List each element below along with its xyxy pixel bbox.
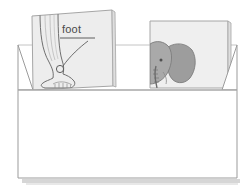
box-shadow bbox=[22, 179, 240, 183]
card-foot[interactable]: foot bbox=[32, 10, 116, 90]
illustration-canvas: foot bbox=[0, 0, 252, 196]
box-shadow-soft bbox=[26, 183, 238, 185]
card-foot-edge bbox=[112, 10, 116, 87]
box-front-face bbox=[18, 90, 237, 178]
elephant-eye bbox=[160, 59, 163, 62]
card-foot-label: foot bbox=[62, 23, 81, 35]
card-elephant[interactable] bbox=[150, 21, 231, 89]
box-and-cards-illustration: foot bbox=[0, 0, 252, 196]
box-left-flap bbox=[18, 45, 33, 90]
